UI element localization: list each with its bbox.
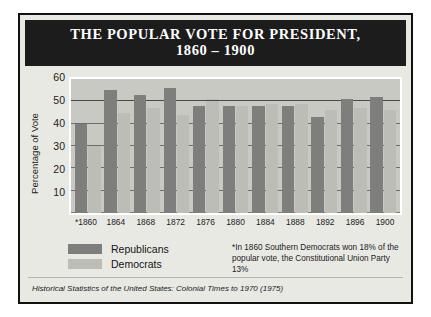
x-tick-1892: 1892 [310,217,340,227]
bar-republicans-1896 [341,99,353,213]
source-citation: Historical Statistics of the United Stat… [32,284,283,293]
bar-group [221,79,251,213]
x-tick-1876: 1876 [191,217,221,227]
bar-republicans-1880 [223,106,235,213]
bar-democrats-1884 [266,104,278,213]
bar-republicans-1892 [311,117,323,213]
bar-republicans-1888 [282,106,294,213]
y-tick-50: 50 [53,94,65,106]
legend-swatch-democrat [68,259,102,269]
bar-group [191,79,221,213]
bar-democrats-1876 [206,99,218,213]
x-tick-1880: 1880 [221,217,251,227]
bar-group [368,79,398,213]
legend-label-democrat: Democrats [111,258,162,270]
y-tick-60: 60 [53,71,65,83]
chart-title-line-1: THE POPULAR VOTE FOR PRESIDENT, [70,27,361,43]
bar-democrats-1892 [325,110,337,213]
bar-groups [71,79,400,213]
chart-figure: THE POPULAR VOTE FOR PRESIDENT, 1860 – 1… [18,13,413,304]
x-tick-1896: 1896 [340,217,370,227]
y-axis-label-text: Percentage of Vote [29,113,40,194]
chart-area: Percentage of Vote 605040302010 *1860186… [25,70,406,242]
x-tick-1860: *1860 [71,217,101,227]
y-tick-10: 10 [53,186,65,198]
bar-democrats-1896 [354,108,366,213]
x-tick-1868: 1868 [131,217,161,227]
bar-group [280,79,310,213]
legend: RepublicansDemocrats [68,243,228,273]
bar-group [162,79,192,213]
source-divider [28,277,403,278]
x-axis-labels: *186018641868187218761880188418881892189… [69,217,402,227]
legend-item-democrat: Democrats [68,258,228,270]
bar-republicans-1900 [370,97,382,213]
bar-group [73,79,103,213]
plot-region [69,77,402,215]
y-axis-ticks: 605040302010 [41,70,67,215]
y-tick-40: 40 [53,117,65,129]
bar-democrats-1900 [384,110,396,213]
x-tick-1888: 1888 [280,217,310,227]
y-axis-label: Percentage of Vote [27,88,41,218]
bar-democrats-1860 [88,146,100,213]
bar-republicans-1884 [252,106,264,213]
bar-group [132,79,162,213]
legend-swatch-republican [68,244,102,254]
legend-label-republican: Republicans [111,243,169,255]
bar-democrats-1880 [236,106,248,213]
bar-republicans-1860 [75,124,87,213]
bar-democrats-1872 [177,115,189,213]
bar-republicans-1872 [164,88,176,213]
bar-republicans-1864 [104,90,116,213]
chart-title-line-2: 1860 – 1900 [176,43,255,59]
footnote: *In 1860 Southern Democrats won 18% of t… [232,243,404,275]
x-tick-1884: 1884 [250,217,280,227]
y-tick-20: 20 [53,163,65,175]
bar-democrats-1864 [118,113,130,214]
x-tick-1864: 1864 [101,217,131,227]
y-tick-30: 30 [53,140,65,152]
title-banner: THE POPULAR VOTE FOR PRESIDENT, 1860 – 1… [25,20,406,66]
bar-democrats-1888 [295,104,307,213]
bar-democrats-1868 [147,108,159,213]
legend-item-republican: Republicans [68,243,228,255]
bar-republicans-1876 [193,106,205,213]
bar-group [103,79,133,213]
bar-group [250,79,280,213]
bar-republicans-1868 [134,95,146,213]
x-tick-1872: 1872 [161,217,191,227]
bar-group [339,79,369,213]
x-tick-1900: 1900 [370,217,400,227]
bar-group [309,79,339,213]
